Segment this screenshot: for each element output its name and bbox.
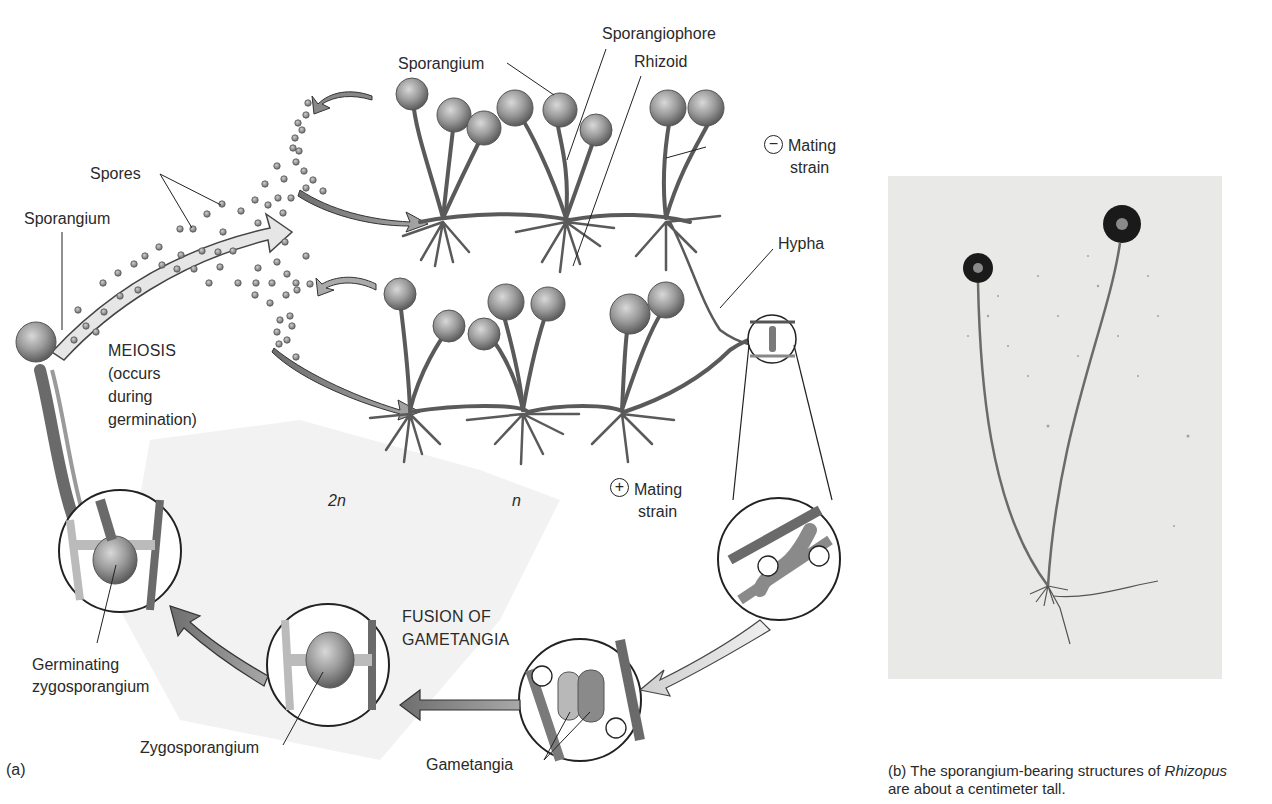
panel-b-caption-genus: Rhizopus [1165, 762, 1228, 779]
label-meiosis-note-3: germination) [108, 410, 197, 429]
zoom-circle-zygosporangium [267, 604, 389, 726]
label-sporangium-top: Sporangium [398, 54, 484, 73]
cycle-arrow-fusion-to-zygo [400, 690, 520, 720]
rhizopus-photo-drawing [888, 176, 1222, 679]
panel-b-caption-text: The sporangium-bearing structures of [910, 762, 1164, 779]
label-germinating-2: zygosporangium [32, 677, 149, 696]
plus-strain-colony [370, 300, 780, 464]
panel-b-caption-line-1: (b) The sporangium-bearing structures of… [888, 762, 1227, 780]
label-zygosporangium: Zygosporangium [140, 738, 259, 757]
label-diploid: 2n [328, 491, 346, 510]
germinating-sporangium-ball [16, 322, 56, 362]
label-gametangia: Gametangia [426, 755, 513, 774]
panel-b-tag: (b) [888, 762, 906, 779]
label-sporangium-left: Sporangium [24, 209, 110, 228]
zoom-circle-gametangia-contact [718, 498, 840, 620]
label-sporangiophore: Sporangiophore [602, 24, 716, 43]
minus-strain-icon: − [764, 135, 783, 154]
cycle-arrow-contact-to-fusion [640, 620, 770, 696]
label-haploid: n [512, 491, 521, 510]
label-fusion-2: GAMETANGIA [402, 630, 510, 649]
label-plus-mating: Mating [634, 480, 682, 499]
label-hypha: Hypha [778, 234, 824, 253]
dispersal-arrow-top-out [298, 190, 428, 232]
plus-strain-icon: + [610, 478, 629, 497]
spore-release-arrow [52, 214, 292, 360]
zoom-circle-gametangia-fusion [519, 639, 641, 761]
label-meiosis-note-1: (occurs [108, 364, 160, 383]
panel-b-caption-line-2: are about a centimeter tall. [888, 780, 1066, 798]
label-plus-strain: strain [638, 502, 677, 521]
label-spores: Spores [90, 164, 141, 183]
label-minus-strain: strain [790, 158, 829, 177]
label-germinating-1: Germinating [32, 655, 119, 674]
label-fusion-1: FUSION OF [402, 607, 491, 626]
label-meiosis-note-2: during [108, 387, 152, 406]
panel-a-tag: (a) [6, 760, 26, 779]
dispersal-arrow-top-return [312, 92, 372, 114]
dispersal-arrow-bottom-return [316, 277, 376, 296]
label-meiosis: MEIOSIS [108, 341, 176, 360]
plus-strain-sporangia [384, 278, 684, 350]
rhizopus-photo [888, 176, 1222, 679]
label-rhizoid: Rhizoid [634, 52, 687, 71]
label-minus-mating: Mating [788, 136, 836, 155]
zoom-circle-germinating-zygosporangium [59, 490, 181, 612]
